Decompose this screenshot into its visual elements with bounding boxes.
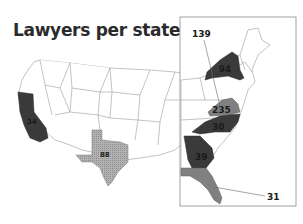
- us-map: 34 88 94 235 30 39 139 31: [0, 0, 303, 224]
- label-new-york: 94: [219, 64, 231, 74]
- label-virginia: 235: [212, 105, 231, 115]
- callout-31: 31: [267, 192, 280, 202]
- label-california: 34: [27, 118, 37, 126]
- callout-139: 139: [192, 29, 211, 39]
- label-north-carolina: 30: [212, 122, 225, 132]
- label-georgia: 39: [195, 152, 208, 162]
- label-texas: 88: [100, 151, 110, 159]
